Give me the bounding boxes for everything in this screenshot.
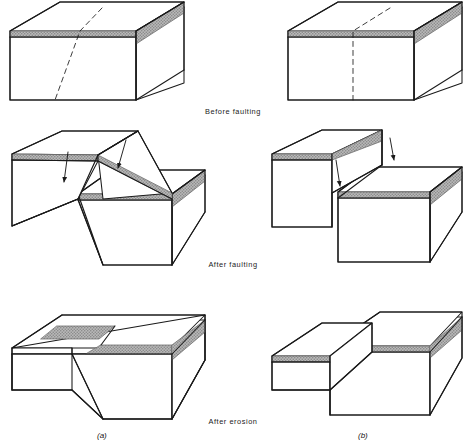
stage-label-after-faulting: After faulting: [0, 260, 466, 269]
stage-label-before-faulting: Before faulting: [0, 107, 466, 116]
fault-block-figure: Before faulting After faulting After ero…: [0, 0, 466, 446]
panel-label-b: (b): [358, 431, 368, 440]
block-a-before: [10, 2, 184, 100]
displacement-arrow-down-b: [390, 138, 394, 160]
block-b-before: [288, 2, 462, 100]
block-b-after-faulting: [272, 130, 462, 262]
marker-bed-outcrop-left-b: [272, 356, 330, 362]
marker-bed-outcrop-right-a: [86, 345, 172, 354]
stage-label-after-erosion: After erosion: [0, 417, 466, 426]
panel-label-a: (a): [97, 431, 107, 440]
block-b-after-erosion: [272, 312, 462, 415]
fault-diagram-canvas: [0, 0, 466, 446]
block-a-after-faulting: [12, 131, 205, 265]
block-a-after-erosion: [12, 315, 205, 419]
